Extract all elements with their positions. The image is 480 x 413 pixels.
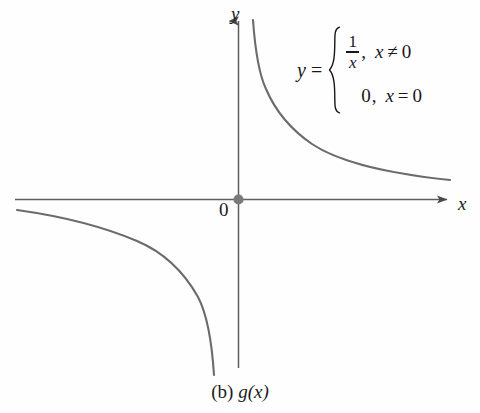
equation-case-zero: 0 , x=0: [346, 85, 422, 107]
curve-lower-left-branch: [17, 210, 214, 375]
condition-variable-2: x: [385, 85, 393, 106]
case-separator-comma: ,: [361, 41, 366, 63]
case-condition-zero: x=0: [385, 85, 422, 107]
case-value-zero: 0: [361, 85, 371, 107]
y-axis-label: y: [231, 4, 239, 23]
x-axis-label: x: [458, 194, 466, 213]
origin-point-dot: [233, 194, 243, 204]
condition-relation-not-equal: ≠: [387, 41, 397, 62]
condition-variable: x: [375, 41, 383, 62]
caption-function-name: g(x): [238, 381, 269, 402]
condition-relation-equal: =: [398, 85, 409, 106]
curly-brace-icon: [328, 26, 341, 114]
equation-case-nonzero: 1 x , x≠0: [346, 33, 422, 70]
piecewise-equation: y = 1 x , x≠0 0 , x=0: [297, 26, 422, 114]
figure-caption: (b) g(x): [0, 381, 480, 403]
fraction-numerator: 1: [346, 33, 359, 51]
equation-lhs: y: [297, 59, 306, 82]
equation-equals-sign: =: [311, 59, 322, 82]
origin-label: 0: [219, 200, 229, 219]
condition-value-2: 0: [413, 85, 423, 106]
figure-container: y x 0 y = 1 x , x≠0 0 ,: [0, 0, 480, 413]
case-condition-nonzero: x≠0: [375, 41, 411, 63]
fraction-one-over-x: 1 x: [346, 33, 359, 70]
condition-value: 0: [402, 41, 412, 62]
caption-label: (b): [211, 381, 233, 402]
fraction-denominator: x: [347, 53, 359, 71]
equation-cases: 1 x , x≠0 0 , x=0: [346, 33, 422, 106]
case-separator-comma-2: ,: [372, 85, 377, 107]
